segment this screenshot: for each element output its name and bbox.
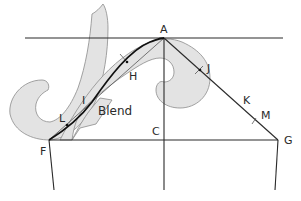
label-a: A	[160, 23, 168, 36]
label-k: K	[243, 94, 251, 107]
blend-construction-diagram: A H J K M G C F I L Blend	[0, 0, 301, 201]
label-i: I	[82, 94, 85, 107]
label-j: J	[206, 62, 210, 75]
point-l	[66, 124, 69, 127]
point-j	[199, 69, 202, 72]
point-h	[126, 61, 129, 64]
line-f-down	[49, 140, 54, 190]
label-h: H	[129, 70, 137, 83]
line-g-down	[275, 140, 278, 190]
label-blend: Blend	[98, 104, 132, 118]
label-g: G	[284, 134, 293, 147]
label-m: M	[261, 109, 271, 122]
label-f: F	[40, 145, 46, 158]
label-c: C	[152, 125, 160, 138]
label-l: L	[59, 112, 66, 125]
